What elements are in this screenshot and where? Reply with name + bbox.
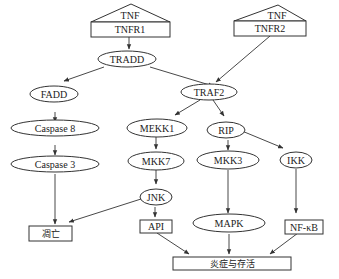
node-fadd: FADD	[30, 86, 78, 102]
svg-text:IKK: IKK	[287, 155, 306, 166]
svg-text:NF-κB: NF-κB	[290, 222, 318, 233]
edge-tradd-fadd	[64, 67, 104, 81]
node-inflammation-survival: 炎症与存活	[173, 257, 291, 270]
svg-text:MAPK: MAPK	[215, 218, 245, 229]
edge-tradd-traf2	[150, 67, 213, 86]
svg-text:FADD: FADD	[41, 89, 67, 100]
node-mapk: MAPK	[193, 214, 265, 232]
svg-text:RIP: RIP	[218, 125, 234, 136]
svg-text:凋亡: 凋亡	[42, 228, 60, 239]
edge-nfkb-inflammation	[270, 233, 298, 254]
svg-text:MKK3: MKK3	[214, 155, 242, 166]
node-traf2: TRAF2	[181, 84, 237, 100]
svg-text:API: API	[148, 221, 164, 232]
svg-text:MEKK1: MEKK1	[140, 123, 174, 134]
svg-text:Caspase 3: Caspase 3	[35, 159, 75, 170]
svg-text:TRAF2: TRAF2	[194, 87, 225, 98]
edge-api-inflammation	[157, 233, 189, 254]
node-jnk: JNK	[140, 189, 172, 205]
node-api: API	[140, 220, 172, 233]
svg-text:MKK7: MKK7	[142, 156, 170, 167]
tnf-label-2: TNF	[268, 10, 287, 21]
tnfr2-receptor-group: TNF TNFR2	[234, 5, 306, 36]
edge-rip-ikk	[242, 131, 283, 148]
node-mekk1: MEKK1	[127, 119, 187, 137]
node-ikk: IKK	[280, 152, 312, 168]
node-apoptosis: 凋亡	[29, 226, 72, 241]
node-caspase8: Caspase 8	[11, 120, 99, 136]
node-tradd: TRADD	[98, 51, 156, 67]
node-caspase3: Caspase 3	[11, 156, 99, 172]
node-nfkb: NF-κB	[285, 220, 323, 234]
tnfr2-label: TNFR2	[255, 23, 286, 34]
edge-traf2-rip	[213, 100, 224, 116]
node-rip: RIP	[207, 122, 245, 138]
tnf-signaling-diagram: TNF TNFR1 TNF TNFR2 TRADD TRAF2 FADD Cas…	[0, 0, 339, 279]
svg-text:TRADD: TRADD	[110, 54, 144, 65]
edge-traf2-mekk1	[175, 100, 200, 115]
edge-tnfr2-traf2	[216, 36, 270, 82]
node-mkk3: MKK3	[197, 151, 259, 169]
svg-text:Caspase 8: Caspase 8	[35, 123, 75, 134]
svg-text:炎症与存活: 炎症与存活	[210, 258, 255, 269]
tnfr1-label: TNFR1	[115, 24, 146, 35]
tnfr1-receptor-group: TNF TNFR1	[91, 4, 170, 37]
node-mkk7: MKK7	[128, 152, 184, 170]
svg-text:JNK: JNK	[147, 192, 166, 203]
edge-jnk-apoptosis	[69, 199, 141, 222]
tnf-label-1: TNF	[121, 10, 140, 21]
